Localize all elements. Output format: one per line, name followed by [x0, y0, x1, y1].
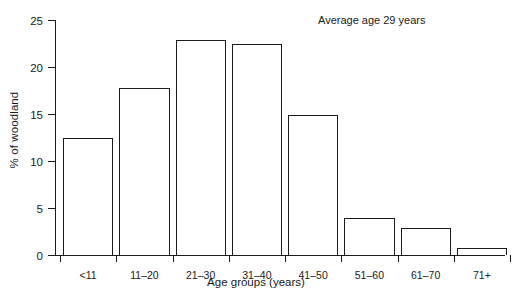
y-tick-label: 10	[30, 154, 43, 170]
y-tick: 0	[48, 255, 55, 256]
x-tick	[341, 255, 342, 262]
x-tick	[398, 255, 399, 262]
bar	[176, 40, 226, 255]
y-tick: 10	[48, 161, 55, 162]
x-tick	[510, 255, 511, 262]
x-tick	[116, 255, 117, 262]
y-tick: 20	[48, 67, 55, 68]
x-axis-title: Age groups (years)	[0, 276, 512, 288]
bar	[63, 138, 113, 256]
x-axis-line	[55, 255, 505, 256]
y-tick: 5	[48, 208, 55, 209]
bar	[232, 44, 282, 255]
y-tick-label: 5	[37, 201, 43, 217]
bar	[401, 228, 451, 255]
y-tick-label: 15	[30, 107, 43, 123]
x-tick	[173, 255, 174, 262]
plot-area: 0510152025 <1111–2021–3031–4041–5051–606…	[55, 20, 505, 255]
bar-chart: % of woodland 0510152025 <1111–2021–3031…	[0, 0, 512, 302]
y-tick: 25	[48, 20, 55, 21]
bar	[119, 88, 169, 255]
y-axis-line	[55, 20, 56, 256]
y-axis-title-text: % of woodland	[8, 92, 20, 169]
bar	[288, 115, 338, 255]
y-tick: 15	[48, 114, 55, 115]
average-age-annotation: Average age 29 years	[318, 14, 425, 26]
x-tick	[60, 255, 61, 262]
y-tick-label: 0	[37, 248, 43, 264]
y-axis-title: % of woodland	[2, 0, 26, 260]
x-tick	[229, 255, 230, 262]
x-tick	[285, 255, 286, 262]
bar	[457, 248, 507, 255]
y-tick-label: 20	[30, 60, 43, 76]
x-tick	[454, 255, 455, 262]
bar	[344, 218, 394, 255]
y-tick-label: 25	[30, 13, 43, 29]
